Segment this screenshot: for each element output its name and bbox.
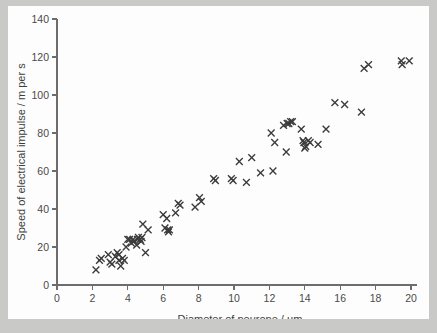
data-point — [172, 209, 179, 216]
data-point — [192, 204, 199, 211]
data-point — [108, 261, 115, 268]
data-point — [271, 139, 278, 146]
y-axis-label: Speed of electrical impulse / m per s — [15, 63, 27, 241]
x-tick-label: 14 — [299, 292, 311, 304]
data-point — [283, 149, 290, 156]
data-point — [365, 61, 372, 68]
data-point — [98, 255, 105, 262]
data-point — [358, 109, 365, 116]
data-point — [236, 158, 243, 165]
data-point — [145, 227, 152, 234]
y-tick-label: 0 — [43, 279, 49, 291]
x-tick-label: 10 — [228, 292, 240, 304]
y-tick-label: 120 — [31, 51, 49, 63]
data-series-0 — [93, 57, 413, 273]
x-tick-label: 18 — [370, 292, 382, 304]
x-tick-label: 4 — [125, 292, 131, 304]
y-tick-label: 40 — [37, 203, 49, 215]
data-point — [212, 177, 219, 184]
data-point — [117, 263, 124, 270]
data-point — [331, 99, 338, 106]
data-point — [105, 251, 112, 258]
x-tick-label: 20 — [405, 292, 417, 304]
x-tick-label: 2 — [89, 292, 95, 304]
data-point — [243, 179, 250, 186]
data-point — [298, 126, 305, 133]
x-tick-label: 6 — [160, 292, 166, 304]
data-point — [248, 154, 255, 161]
data-point — [268, 130, 275, 137]
data-point — [177, 202, 184, 209]
y-tick-label: 20 — [37, 241, 49, 253]
data-point — [121, 257, 128, 264]
figure-panel: 02040608010012014002468101214161820Diame… — [8, 6, 429, 319]
x-axis-label: Diameter of neurone / µm — [178, 313, 303, 319]
data-point — [142, 249, 149, 256]
data-point — [230, 177, 237, 184]
data-point — [315, 141, 322, 148]
data-point — [93, 266, 100, 273]
data-point — [270, 168, 277, 175]
x-tick-label: 12 — [264, 292, 276, 304]
y-tick-label: 140 — [31, 13, 49, 25]
x-tick-label: 8 — [196, 292, 202, 304]
x-tick-label: 16 — [334, 292, 346, 304]
data-point — [307, 139, 314, 146]
data-point — [257, 170, 264, 177]
x-tick-label: 0 — [54, 292, 60, 304]
data-point — [406, 57, 413, 64]
data-point — [341, 101, 348, 108]
y-tick-label: 60 — [37, 165, 49, 177]
y-tick-label: 80 — [37, 127, 49, 139]
data-point — [323, 126, 330, 133]
data-point — [163, 215, 170, 222]
chart-canvas: 02040608010012014002468101214161820Diame… — [8, 6, 429, 319]
scatter-plot: 02040608010012014002468101214161820Diame… — [8, 6, 429, 319]
y-tick-label: 100 — [31, 89, 49, 101]
